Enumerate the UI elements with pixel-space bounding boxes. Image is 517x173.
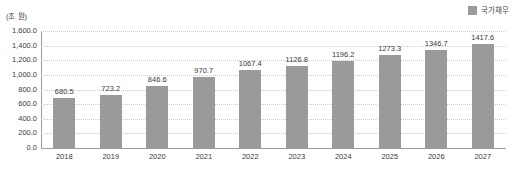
- chart-legend: 국가채무: [468, 4, 509, 16]
- x-axis-tick-label: 2025: [381, 152, 398, 162]
- bar-group[interactable]: 1196.2: [320, 31, 366, 148]
- x-axis-tick-label: 2022: [242, 152, 259, 162]
- bar[interactable]: [425, 50, 447, 148]
- legend-label-national-debt: 국가채무: [481, 6, 509, 15]
- bar[interactable]: [286, 66, 308, 148]
- bar-group[interactable]: 970.7: [181, 31, 227, 148]
- legend-swatch-national-debt-icon: [468, 6, 477, 15]
- bar-value-label: 1067.4: [239, 59, 262, 68]
- bar-group[interactable]: 680.5: [41, 31, 87, 148]
- bar[interactable]: [472, 44, 494, 148]
- y-axis-tick-label: 1,200.0: [12, 56, 37, 64]
- y-axis-tick-label: 400.0: [18, 115, 37, 123]
- bar-series-national-debt: 680.5723.2846.6970.71067.41126.81196.212…: [41, 31, 506, 148]
- bar-value-label: 1126.8: [286, 55, 308, 64]
- x-axis-tick-label: 2026: [428, 152, 445, 162]
- bar[interactable]: [379, 55, 401, 148]
- x-axis-tick-label: 2023: [288, 152, 305, 162]
- x-axis-tick-labels: 2018201920202021202220232024202520262027: [41, 152, 506, 166]
- y-axis-tick-label: 0.0: [27, 144, 37, 152]
- bar-group[interactable]: 1417.6: [460, 31, 506, 148]
- bar-group[interactable]: 1273.3: [367, 31, 413, 148]
- bar-value-label: 1346.7: [425, 39, 448, 48]
- x-axis-tick-label: 2018: [56, 152, 73, 162]
- y-axis-tick-label: 1,400.0: [12, 42, 37, 50]
- y-axis-unit-caption: (조 원): [6, 12, 27, 22]
- y-axis-tick-label: 800.0: [18, 86, 37, 94]
- bar[interactable]: [332, 61, 354, 148]
- bar[interactable]: [193, 77, 215, 148]
- y-axis-tick-label: 1,000.0: [12, 71, 37, 79]
- x-axis-tick-label: 2020: [149, 152, 166, 162]
- bar-value-label: 846.6: [148, 75, 167, 84]
- bar-group[interactable]: 1126.8: [274, 31, 320, 148]
- y-axis-tick-label: 600.0: [18, 100, 37, 108]
- plot-area: 680.5723.2846.6970.71067.41126.81196.212…: [41, 31, 506, 148]
- y-axis-tick-labels: 0.0200.0400.0600.0800.01,000.01,200.01,4…: [0, 31, 37, 148]
- gridline: [41, 148, 506, 149]
- x-axis-tick-label: 2027: [474, 152, 491, 162]
- bar-group[interactable]: 723.2: [88, 31, 134, 148]
- bar[interactable]: [53, 98, 75, 148]
- bar-value-label: 1196.2: [332, 50, 354, 59]
- y-axis-tick-label: 1,600.0: [12, 27, 37, 35]
- x-axis-tick-label: 2021: [195, 152, 212, 162]
- bar-value-label: 680.5: [55, 87, 74, 96]
- bar-value-label: 1417.6: [471, 33, 494, 42]
- y-axis-tick-label: 200.0: [18, 129, 37, 137]
- bar-value-label: 1273.3: [378, 44, 401, 53]
- bar[interactable]: [100, 95, 122, 148]
- bar-value-label: 723.2: [101, 84, 120, 93]
- x-axis-tick-label: 2024: [335, 152, 352, 162]
- x-axis-tick-label: 2019: [102, 152, 119, 162]
- bar[interactable]: [146, 86, 168, 148]
- bar-chart: 국가채무 (조 원) 0.0200.0400.0600.0800.01,000.…: [0, 0, 517, 173]
- bar[interactable]: [239, 70, 261, 148]
- bar-group[interactable]: 846.6: [134, 31, 180, 148]
- bar-group[interactable]: 1346.7: [413, 31, 459, 148]
- bar-value-label: 970.7: [194, 66, 213, 75]
- bar-group[interactable]: 1067.4: [227, 31, 273, 148]
